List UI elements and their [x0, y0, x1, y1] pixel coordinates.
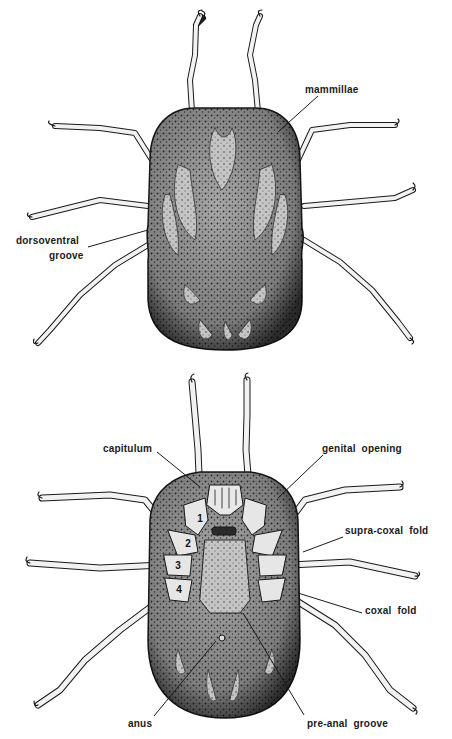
coxa-number-1: 1 — [195, 513, 205, 524]
label-anus: anus — [128, 718, 152, 730]
label-capitulum: capitulum — [103, 443, 152, 455]
label-genital-opening: genital opening — [322, 443, 402, 455]
coxa-number-2: 2 — [183, 538, 193, 549]
label-supra-coxal-fold: supra-coxal fold — [345, 525, 428, 537]
leader-mammillae — [278, 96, 318, 132]
leader-supra-coxal-fold — [303, 537, 343, 552]
tick-illustration — [0, 0, 452, 739]
ventral-view — [26, 373, 420, 718]
dorsal-view — [28, 10, 416, 350]
label-coxal-fold: coxal fold — [365, 605, 417, 617]
label-mammillae: mammillae — [305, 84, 359, 96]
label-dorsoventral-line1: dorsoventral — [16, 235, 79, 247]
coxa-number-3: 3 — [173, 560, 183, 571]
genital-opening-shape — [212, 527, 236, 535]
leader-dorsoventral-groove — [88, 230, 148, 247]
coxa-number-4: 4 — [174, 584, 184, 595]
leader-genital-opening — [278, 455, 323, 498]
tick-anatomy-figure: mammillae dorsoventral groove capitulum … — [0, 0, 452, 739]
label-dorsoventral-line2: groove — [49, 250, 84, 262]
anus-shape — [219, 635, 225, 641]
label-pre-anal-groove: pre-anal groove — [307, 718, 388, 730]
